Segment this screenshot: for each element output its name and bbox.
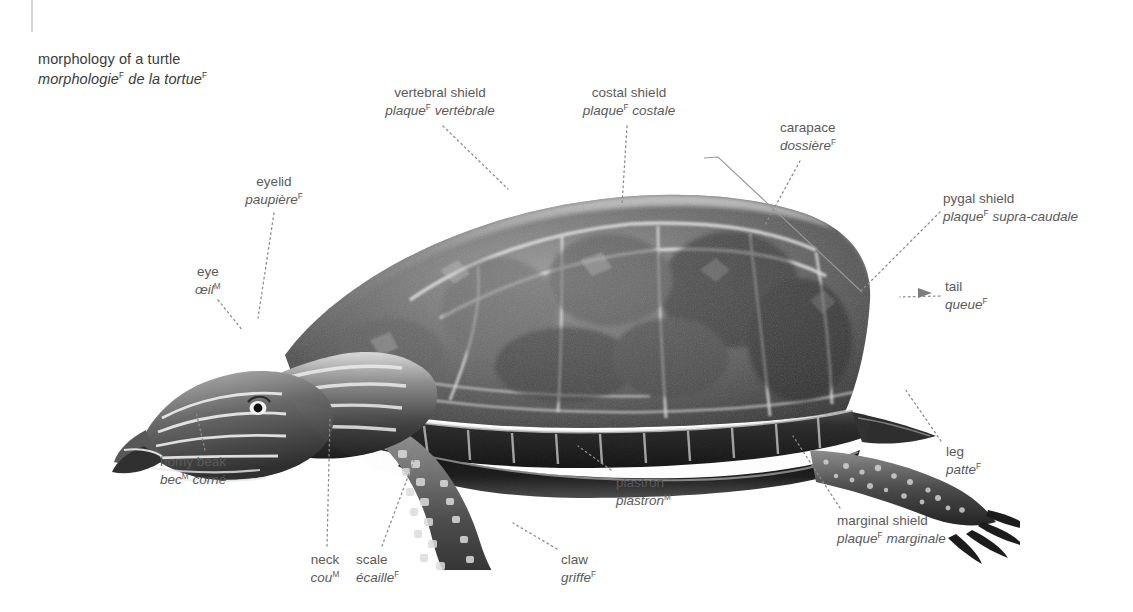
label-carapace-fr: dossièreF bbox=[780, 137, 836, 155]
fr-main: griffe bbox=[561, 570, 591, 585]
label-vertebral-shield-en: vertebral shield bbox=[360, 84, 520, 102]
fr-main: plastron bbox=[616, 493, 664, 508]
label-pygal-shield-en: pygal shield bbox=[943, 190, 1078, 208]
gender-marker-m: M bbox=[664, 492, 671, 501]
label-carapace-en: carapace bbox=[780, 119, 836, 137]
gender-marker-f: F bbox=[976, 461, 981, 470]
label-carapace: carapace dossièreF bbox=[780, 119, 836, 155]
label-vertebral-shield-fr: plaqueF vertébrale bbox=[360, 102, 520, 120]
label-marginal-shield-en: marginal shield bbox=[837, 512, 946, 530]
gender-marker-f: F bbox=[831, 137, 836, 146]
fr-main: écaille bbox=[356, 570, 394, 585]
label-leg-fr: patteF bbox=[946, 461, 981, 479]
gender-marker-f: F bbox=[298, 191, 303, 200]
label-eye-fr: œilM bbox=[158, 281, 258, 299]
gender-marker-m: M bbox=[182, 471, 189, 480]
title-french: morphologieF de la tortueF bbox=[38, 70, 207, 90]
fr-main: paupière bbox=[245, 192, 298, 207]
label-marginal-shield: marginal shield plaqueF marginale bbox=[837, 512, 946, 548]
label-tail: tail queueF bbox=[945, 278, 988, 314]
fr-main: bec bbox=[160, 472, 182, 487]
fr-main: dossière bbox=[780, 138, 831, 153]
label-neck-fr: couM bbox=[285, 569, 365, 587]
label-costal-shield-fr: plaqueF costale bbox=[554, 102, 704, 120]
gender-marker-m: M bbox=[214, 281, 221, 290]
title-french-main: morphologie bbox=[38, 71, 119, 87]
label-eyelid-en: eyelid bbox=[214, 173, 334, 191]
label-neck-en: neck bbox=[285, 551, 365, 569]
fr-main: plaque bbox=[583, 103, 624, 118]
label-scale: scale écailleF bbox=[356, 551, 399, 587]
turtle-illustration bbox=[110, 150, 1020, 570]
label-plastron: plastron plastronM bbox=[616, 474, 671, 510]
label-horny-beak: homy beak becM corné bbox=[160, 453, 226, 489]
gender-marker-f: F bbox=[591, 569, 596, 578]
label-eye: eye œilM bbox=[158, 263, 258, 299]
label-plastron-en: plastron bbox=[616, 474, 671, 492]
title-english: morphology of a turtle bbox=[38, 50, 207, 70]
label-costal-shield-en: costal shield bbox=[554, 84, 704, 102]
label-marginal-shield-fr: plaqueF marginale bbox=[837, 530, 946, 548]
fr-rest: vertébrale bbox=[431, 103, 495, 118]
label-scale-en: scale bbox=[356, 551, 399, 569]
label-claw-en: claw bbox=[561, 551, 596, 569]
fr-main: plaque bbox=[837, 531, 878, 546]
fr-main: patte bbox=[946, 462, 976, 477]
label-costal-shield: costal shield plaqueF costale bbox=[554, 84, 704, 120]
gender-marker-f: F bbox=[202, 71, 207, 80]
fr-main: cou bbox=[311, 570, 333, 585]
page-title: morphology of a turtle morphologieF de l… bbox=[38, 50, 207, 89]
label-claw-fr: griffeF bbox=[561, 569, 596, 587]
label-horny-beak-fr: becM corné bbox=[160, 471, 226, 489]
label-eyelid-fr: paupièreF bbox=[214, 191, 334, 209]
label-eyelid: eyelid paupièreF bbox=[214, 173, 334, 209]
fr-rest: marginale bbox=[883, 531, 946, 546]
label-claw: claw griffeF bbox=[561, 551, 596, 587]
page-canvas: morphology of a turtle morphologieF de l… bbox=[0, 0, 1133, 612]
label-pygal-shield: pygal shield plaqueF supra-caudale bbox=[943, 190, 1078, 226]
label-leg: leg patteF bbox=[946, 443, 981, 479]
gender-marker-f: F bbox=[983, 296, 988, 305]
label-scale-fr: écailleF bbox=[356, 569, 399, 587]
title-french-rest: de la tortue bbox=[124, 71, 202, 87]
gender-marker-f: F bbox=[394, 569, 399, 578]
label-vertebral-shield: vertebral shield plaqueF vertébrale bbox=[360, 84, 520, 120]
fr-main: plaque bbox=[943, 209, 984, 224]
label-horny-beak-en: homy beak bbox=[160, 453, 226, 471]
gender-marker-m: M bbox=[332, 569, 339, 578]
fr-rest: supra-caudale bbox=[989, 209, 1078, 224]
fr-rest: corné bbox=[189, 472, 227, 487]
label-pygal-shield-fr: plaqueF supra-caudale bbox=[943, 208, 1078, 226]
label-plastron-fr: plastronM bbox=[616, 492, 671, 510]
label-tail-en: tail bbox=[945, 278, 988, 296]
label-leg-en: leg bbox=[946, 443, 981, 461]
fr-main: queue bbox=[945, 297, 983, 312]
fr-main: plaque bbox=[385, 103, 426, 118]
label-eye-en: eye bbox=[158, 263, 258, 281]
label-neck: neck couM bbox=[285, 551, 365, 587]
corner-rule bbox=[31, 0, 33, 32]
label-tail-fr: queueF bbox=[945, 296, 988, 314]
fr-main: œil bbox=[195, 282, 214, 297]
fr-rest: costale bbox=[629, 103, 676, 118]
